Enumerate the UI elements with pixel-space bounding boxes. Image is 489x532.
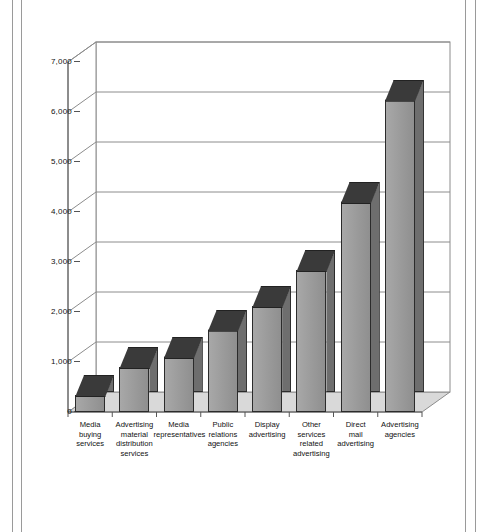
x-axis-category-label: Media representatives	[154, 420, 204, 439]
x-axis-category-labels: Media buying servicesAdvertising materia…	[22, 420, 466, 520]
bar-column[interactable]	[208, 310, 238, 413]
y-axis-tick-label: 7,000	[12, 58, 72, 66]
bar-column[interactable]	[252, 286, 282, 412]
y-axis-tick-mark	[74, 311, 80, 312]
bar-column[interactable]	[385, 80, 415, 413]
bar-column[interactable]	[75, 375, 105, 412]
y-axis-tick-label: 0	[12, 408, 72, 416]
bar-front-face	[252, 306, 282, 412]
bar-front-face	[164, 357, 194, 412]
y-axis-tick-mark	[74, 61, 80, 62]
x-axis-category-label: Advertising agencies	[375, 420, 425, 439]
x-axis-category-label: Public relations agencies	[198, 420, 248, 449]
bar-chart: 7,0006,0005,0004,0003,0002,0001,0000 Med…	[22, 0, 466, 532]
x-axis-category-label: Other services related advertising	[286, 420, 336, 458]
y-axis-tick-label: 4,000	[12, 208, 72, 216]
bar-side-face	[415, 80, 424, 393]
bar-side-face	[371, 182, 380, 392]
page-rule-left-outer	[12, 0, 13, 532]
bar-front-face	[341, 202, 371, 412]
bar-column[interactable]	[296, 250, 326, 412]
bar-front-face	[119, 367, 149, 412]
y-axis-tick-label: 1,000	[12, 358, 72, 366]
x-axis-category-label: Advertising material distribution servic…	[109, 420, 159, 458]
x-axis-category-label: Direct mail advertising	[331, 420, 381, 449]
y-axis-tick-mark	[74, 111, 80, 112]
x-axis-category-label: Media buying services	[65, 420, 115, 449]
y-axis-tick-mark	[74, 361, 80, 362]
x-tick-group	[68, 412, 422, 417]
y-axis-tick-mark	[74, 211, 80, 212]
plot-left-wall	[68, 42, 96, 412]
y-axis-tick-mark	[74, 161, 80, 162]
bar-side-face	[326, 250, 335, 392]
y-axis-tick-label: 5,000	[12, 158, 72, 166]
bar-column[interactable]	[119, 347, 149, 412]
bar-front-face	[208, 330, 238, 413]
bar-front-face	[385, 100, 415, 413]
y-axis-tick-label: 3,000	[12, 258, 72, 266]
bar-column[interactable]	[164, 337, 194, 412]
page-rule-right-outer	[475, 0, 476, 532]
y-axis-tick-mark	[74, 261, 80, 262]
x-axis-category-label: Display advertising	[242, 420, 292, 439]
bar-front-face	[296, 270, 326, 412]
bar-column[interactable]	[341, 182, 371, 412]
y-axis-tick-label: 2,000	[12, 308, 72, 316]
y-axis-tick-label: 6,000	[12, 108, 72, 116]
bar-front-face	[75, 395, 105, 412]
